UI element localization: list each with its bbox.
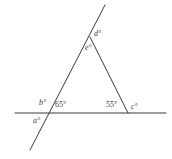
transversal-line [30,5,105,150]
angle-label-65: 65° [55,101,66,109]
angle-label-e: e° [85,44,92,52]
angle-label-b: b° [39,99,46,107]
figure-line-group [15,5,166,150]
geometry-figure: d°e°b°65°a°55°c° [0,0,172,159]
geometry-figure-canvas [0,0,172,159]
angle-label-d: d° [94,30,101,38]
angle-label-55: 55° [106,101,117,109]
angle-label-c: c° [131,103,138,111]
angle-label-a: a° [33,117,40,125]
